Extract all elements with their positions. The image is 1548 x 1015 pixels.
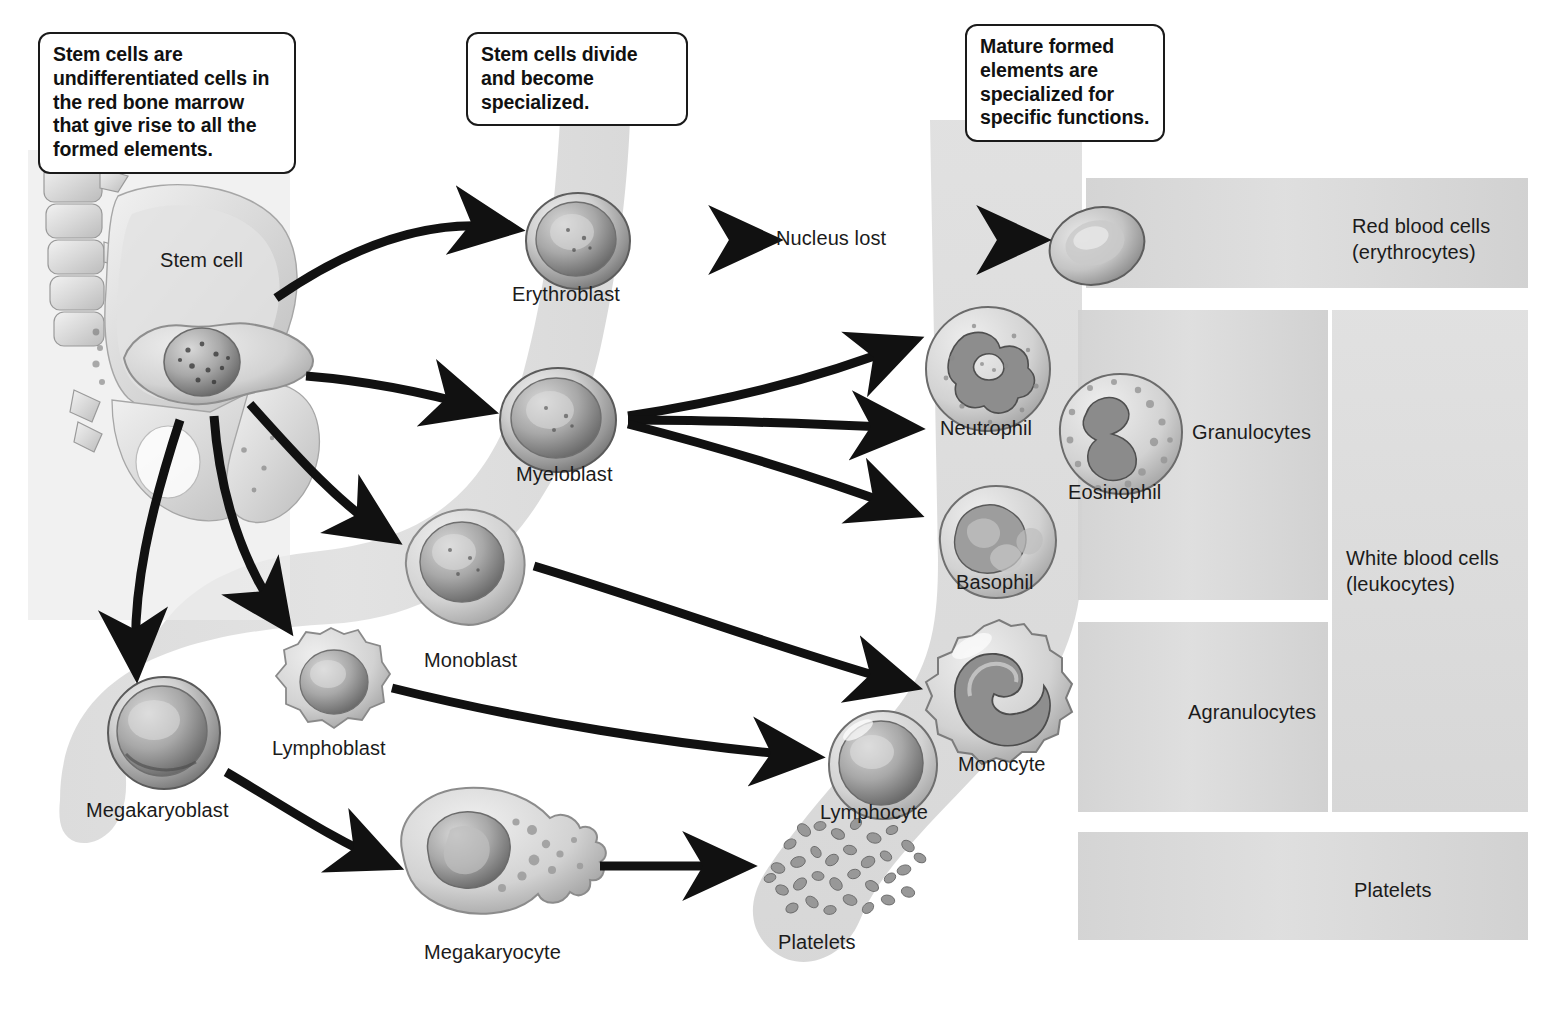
label-red-blood-cells-line1: Red blood cells	[1352, 214, 1490, 238]
label-red-blood-cells-line2: (erythrocytes)	[1352, 240, 1476, 264]
label-myeloblast: Myeloblast	[516, 462, 613, 486]
label-monocyte: Monocyte	[958, 752, 1046, 776]
label-nucleus-lost: Nucleus lost	[776, 226, 886, 250]
label-white-blood-cells-line2: (leukocytes)	[1346, 572, 1455, 596]
label-megakaryoblast: Megakaryoblast	[86, 798, 229, 822]
label-platelets: Platelets	[778, 930, 856, 954]
label-monoblast: Monoblast	[424, 648, 517, 672]
label-agranulocytes: Agranulocytes	[1188, 700, 1316, 724]
callout-divide: Stem cells divide and become specialized…	[466, 32, 688, 126]
label-granulocytes: Granulocytes	[1192, 420, 1311, 444]
label-eosinophil: Eosinophil	[1068, 480, 1161, 504]
callout-stem-cells: Stem cells are undifferentiated cells in…	[38, 32, 296, 174]
label-white-blood-cells-line1: White blood cells	[1346, 546, 1499, 570]
label-neutrophil: Neutrophil	[940, 416, 1032, 440]
callout-mature: Mature formed elements are specialized f…	[965, 24, 1165, 142]
label-erythroblast: Erythroblast	[512, 282, 620, 306]
label-basophil: Basophil	[956, 570, 1034, 594]
label-stem-cell: Stem cell	[160, 248, 243, 272]
hematopoiesis-diagram: Stem cells are undifferentiated cells in…	[0, 0, 1548, 1015]
label-lymphoblast: Lymphoblast	[272, 736, 386, 760]
label-platelets-category: Platelets	[1354, 878, 1432, 902]
label-megakaryocyte: Megakaryocyte	[424, 940, 561, 964]
label-lymphocyte: Lymphocyte	[820, 800, 928, 824]
